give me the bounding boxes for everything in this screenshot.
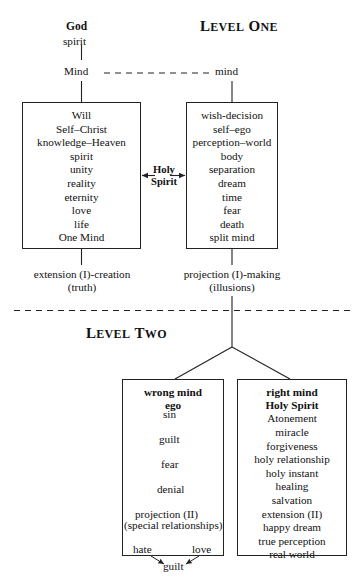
left-mind-box: Will Self–Christ knowledge–Heaven spirit… (22, 102, 141, 249)
left-box-item: One Mind (23, 231, 140, 245)
right-mind-item: salvation (238, 494, 346, 508)
chain-item-guilt: guilt (159, 433, 180, 446)
left-box-item: spirit (23, 150, 140, 164)
right-box-item: split mind (187, 231, 277, 245)
right-mind-item: forgiveness (238, 440, 346, 454)
right-box-item: self–ego (187, 123, 277, 137)
label-mind-left: Mind (64, 66, 88, 77)
left-caption: extension (I)-creation (truth) (6, 268, 158, 294)
right-mind-item: holy relationship (238, 453, 346, 467)
level-two-title: LEVEL TWO (86, 325, 167, 341)
label-spirit: spirit (63, 36, 86, 47)
chain-item-denial: denial (157, 483, 184, 496)
right-mind-item: real world (238, 548, 346, 562)
holy-spirit-bridge-label: Holy Spirit (146, 164, 182, 187)
right-box-item: body (187, 150, 277, 164)
left-box-item: love (23, 204, 140, 218)
left-box-item: eternity (23, 191, 140, 205)
right-caption-line2: (illusions) (162, 281, 302, 294)
left-box-item: reality (23, 177, 140, 191)
level-one-title: LEVEL ONE (200, 18, 278, 34)
chain-item-fear: fear (161, 458, 178, 471)
right-mind-header-2: Holy Spirit (238, 399, 346, 412)
right-mind-item: Atonement (238, 412, 346, 426)
left-box-item: Self–Christ (23, 123, 140, 137)
right-mind-holy-spirit-box: right mind Holy Spirit Atonement miracle… (237, 379, 347, 556)
left-caption-line1: extension (I)-creation (6, 268, 158, 281)
right-box-item: wish-decision (187, 109, 277, 123)
right-box-item: time (187, 191, 277, 205)
branch-label-love: love (192, 543, 211, 556)
chain-item-sin: sin (163, 408, 176, 421)
label-god: God (66, 21, 87, 33)
left-box-item: knowledge–Heaven (23, 136, 140, 150)
right-mind-item: happy dream (238, 521, 346, 535)
diagram-canvas: LEVEL ONE God spirit Mind mind Will Self… (0, 0, 364, 581)
right-mind-item: extension (II) (238, 508, 346, 522)
holy-spirit-line2: Spirit (146, 176, 182, 188)
branch-label-hate: hate (133, 543, 152, 556)
holy-spirit-line1: Holy (146, 164, 182, 176)
wrong-mind-header-1: wrong mind (123, 386, 223, 399)
right-box-item: death (187, 218, 277, 232)
right-caption: projection (I)-making (illusions) (162, 268, 302, 294)
left-box-item: life (23, 218, 140, 232)
right-mind-box: wish-decision self–ego perception–world … (186, 102, 278, 249)
left-box-item: Will (23, 109, 140, 123)
right-box-item: fear (187, 204, 277, 218)
right-mind-item: true perception (238, 535, 346, 549)
left-caption-line2: (truth) (6, 281, 158, 294)
right-box-item: perception–world (187, 136, 277, 150)
left-box-item: unity (23, 163, 140, 177)
right-mind-item: holy instant (238, 467, 346, 481)
right-mind-item: healing (238, 480, 346, 494)
branch-result-guilt: guilt (163, 560, 184, 573)
right-mind-header-1: right mind (238, 386, 346, 399)
label-mind-right: mind (215, 66, 238, 77)
right-mind-item: miracle (238, 426, 346, 440)
right-box-item: dream (187, 177, 277, 191)
right-box-item: separation (187, 163, 277, 177)
chain-item-special-relationships: (special relationships) (124, 519, 222, 532)
right-caption-line1: projection (I)-making (162, 268, 302, 281)
